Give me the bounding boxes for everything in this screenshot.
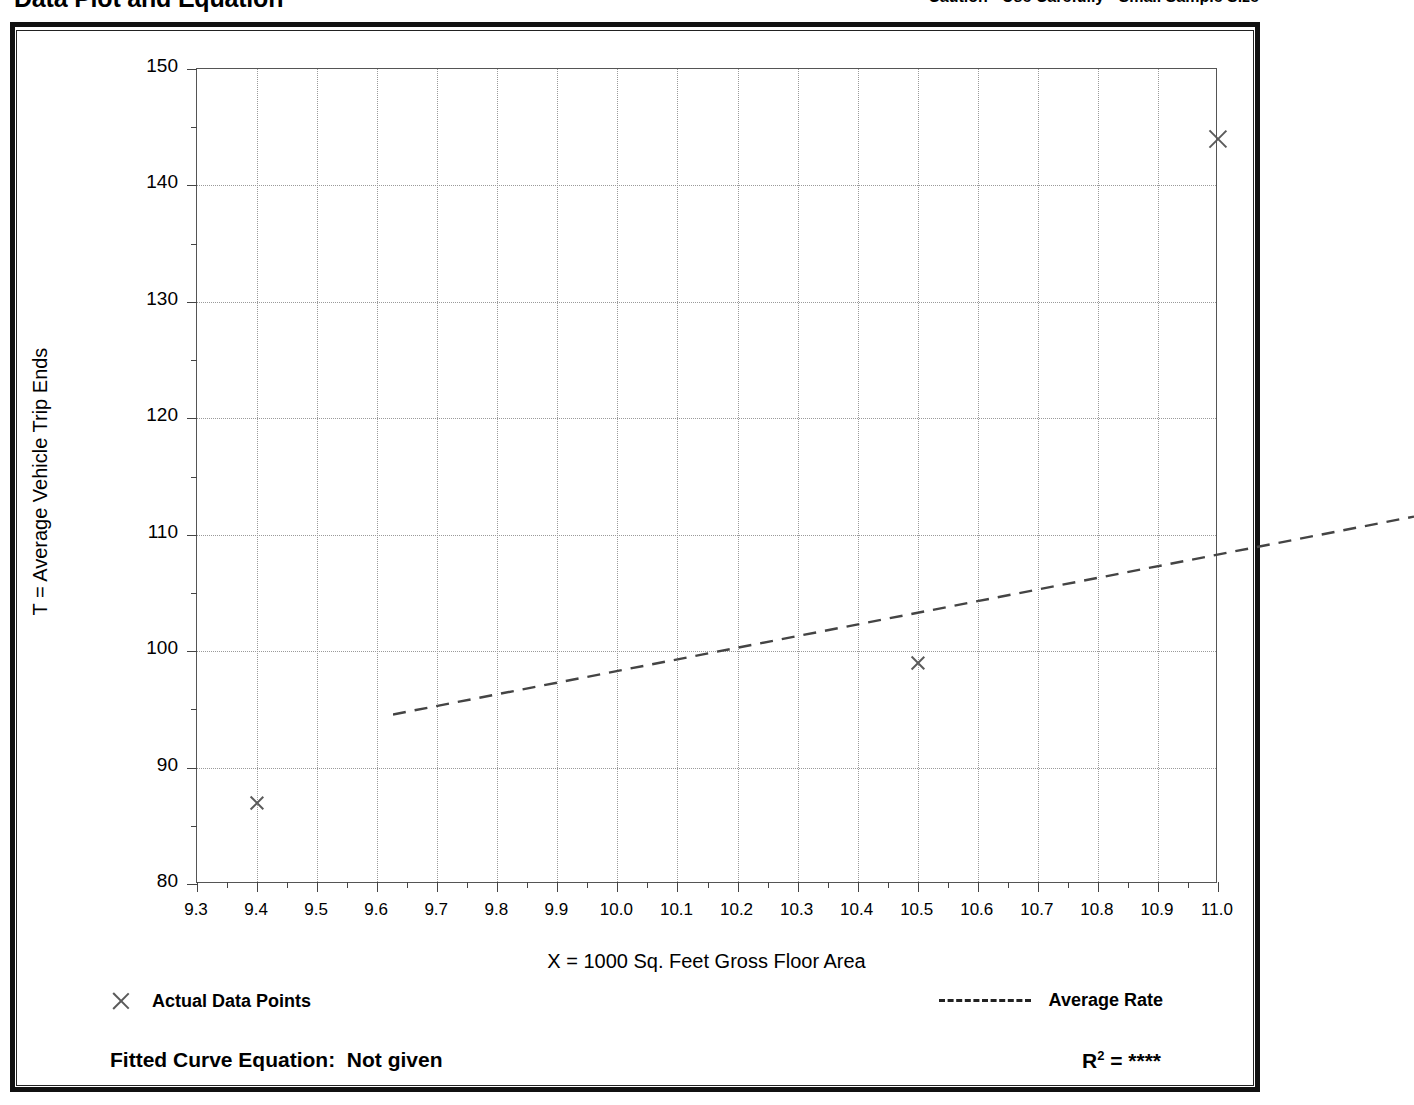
gridline-vertical bbox=[497, 69, 498, 882]
gridline-vertical bbox=[377, 69, 378, 882]
x-tick-label: 11.0 bbox=[1177, 900, 1257, 920]
x-tick-minor bbox=[828, 882, 829, 888]
chart-legend: Actual Data Points Average Rate bbox=[0, 990, 1273, 1030]
y-tick bbox=[187, 418, 197, 419]
x-tick bbox=[918, 882, 919, 892]
y-tick-label: 80 bbox=[96, 870, 178, 892]
x-tick-minor bbox=[1068, 882, 1069, 888]
y-axis-title: T = Average Vehicle Trip Ends bbox=[29, 202, 52, 762]
x-tick bbox=[1098, 882, 1099, 892]
x-tick bbox=[557, 882, 558, 892]
gridline-vertical bbox=[858, 69, 859, 882]
average-rate-line bbox=[393, 137, 1414, 952]
y-tick-minor bbox=[191, 477, 197, 478]
gridline-horizontal bbox=[197, 651, 1216, 652]
x-tick bbox=[197, 882, 198, 892]
x-tick bbox=[437, 882, 438, 892]
gridline-horizontal bbox=[197, 535, 1216, 536]
x-tick-minor bbox=[1008, 882, 1009, 888]
y-tick-minor bbox=[191, 360, 197, 361]
x-tick bbox=[798, 882, 799, 892]
x-tick bbox=[677, 882, 678, 892]
x-tick-minor bbox=[1128, 882, 1129, 888]
y-tick bbox=[187, 651, 197, 652]
gridline-horizontal bbox=[197, 185, 1216, 186]
x-tick bbox=[317, 882, 318, 892]
x-marker-icon bbox=[110, 990, 132, 1012]
gridline-horizontal bbox=[197, 302, 1216, 303]
x-tick-minor bbox=[1188, 882, 1189, 888]
r-squared-prefix: R bbox=[1082, 1049, 1097, 1072]
y-tick-minor bbox=[191, 709, 197, 710]
legend-item-data-points: Actual Data Points bbox=[110, 990, 311, 1012]
data-point bbox=[909, 654, 927, 672]
y-tick-label: 90 bbox=[96, 754, 178, 776]
y-tick-label: 100 bbox=[96, 637, 178, 659]
gridline-vertical bbox=[317, 69, 318, 882]
y-tick-label: 130 bbox=[96, 288, 178, 310]
gridline-horizontal bbox=[197, 768, 1216, 769]
gridline-vertical bbox=[557, 69, 558, 882]
x-tick bbox=[1038, 882, 1039, 892]
gridline-vertical bbox=[738, 69, 739, 882]
y-tick-label: 110 bbox=[96, 521, 178, 543]
x-tick-minor bbox=[587, 882, 588, 888]
r-squared-value: R2 = **** bbox=[1082, 1048, 1161, 1073]
gridline-vertical bbox=[617, 69, 618, 882]
x-tick-minor bbox=[768, 882, 769, 888]
legend-item-average-rate: Average Rate bbox=[939, 990, 1163, 1011]
x-tick bbox=[617, 882, 618, 892]
y-tick-label: 120 bbox=[96, 404, 178, 426]
equation-row: Fitted Curve Equation: Not given R2 = **… bbox=[0, 1048, 1273, 1092]
legend-data-points-label: Actual Data Points bbox=[152, 991, 311, 1012]
x-tick-minor bbox=[347, 882, 348, 888]
gridline-vertical bbox=[1158, 69, 1159, 882]
legend-average-rate-label: Average Rate bbox=[1049, 990, 1163, 1011]
y-tick-minor bbox=[191, 593, 197, 594]
x-tick-minor bbox=[287, 882, 288, 888]
x-tick bbox=[497, 882, 498, 892]
x-tick bbox=[377, 882, 378, 892]
gridline-vertical bbox=[1038, 69, 1039, 882]
y-tick bbox=[187, 768, 197, 769]
r-squared-number: = **** bbox=[1104, 1049, 1161, 1072]
x-tick bbox=[858, 882, 859, 892]
y-tick-label: 150 bbox=[96, 55, 178, 77]
gridline-horizontal bbox=[197, 418, 1216, 419]
x-tick-minor bbox=[948, 882, 949, 888]
gridline-vertical bbox=[257, 69, 258, 882]
x-tick-minor bbox=[407, 882, 408, 888]
y-tick-minor bbox=[191, 826, 197, 827]
gridline-vertical bbox=[798, 69, 799, 882]
x-tick-minor bbox=[227, 882, 228, 888]
x-tick bbox=[738, 882, 739, 892]
y-tick-minor bbox=[191, 244, 197, 245]
y-tick-label: 140 bbox=[96, 171, 178, 193]
x-tick-minor bbox=[708, 882, 709, 888]
y-tick-minor bbox=[191, 127, 197, 128]
gridline-vertical bbox=[918, 69, 919, 882]
fitted-curve-equation: Fitted Curve Equation: Not given bbox=[110, 1048, 443, 1072]
gridline-vertical bbox=[1098, 69, 1099, 882]
y-tick bbox=[187, 69, 197, 70]
y-tick bbox=[187, 185, 197, 186]
dashed-line-icon bbox=[939, 999, 1031, 1002]
y-tick bbox=[187, 535, 197, 536]
gridline-vertical bbox=[437, 69, 438, 882]
x-tick-minor bbox=[527, 882, 528, 888]
data-point bbox=[1206, 127, 1230, 151]
y-tick bbox=[187, 302, 197, 303]
gridline-vertical bbox=[978, 69, 979, 882]
plot-area bbox=[196, 68, 1217, 883]
x-tick-minor bbox=[888, 882, 889, 888]
x-tick bbox=[1158, 882, 1159, 892]
x-tick-minor bbox=[647, 882, 648, 888]
y-tick bbox=[187, 884, 197, 885]
x-tick bbox=[1218, 882, 1219, 892]
gridline-vertical bbox=[677, 69, 678, 882]
x-tick bbox=[978, 882, 979, 892]
data-point bbox=[248, 794, 266, 812]
x-tick bbox=[257, 882, 258, 892]
x-tick-minor bbox=[467, 882, 468, 888]
